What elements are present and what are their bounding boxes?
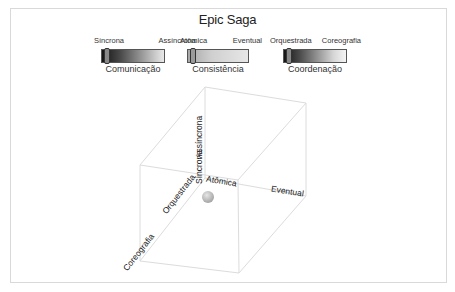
axis-label-orquestrada: Orquestrada [160,172,197,216]
axis-label-atomica: Atômica [206,174,238,189]
axis-label-eventual: Eventual [270,184,304,199]
axis-label-coreografia: Coreografia [121,231,156,272]
cube-diagram: Assíncrona Síncrona Atômica Eventual Orq… [0,0,455,292]
position-marker [202,191,214,203]
